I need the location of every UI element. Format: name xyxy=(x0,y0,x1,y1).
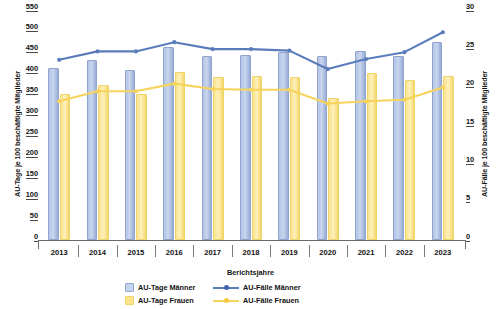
chart-container: AU-Tage je 100 beschäftigte Mitglieder A… xyxy=(0,0,501,309)
legend-item-au-faelle-frauen[interactable]: AU-Fälle Frauen xyxy=(213,296,385,305)
y-axis-right-tick: 25 xyxy=(466,41,488,50)
y-axis-right-stub xyxy=(465,240,466,249)
y-axis-left-tick: 150 xyxy=(12,170,38,179)
line-au-faelle-maenner-point xyxy=(326,67,330,71)
y-axis-left-tick: 450 xyxy=(12,44,38,53)
y-axis-left-tick: 250 xyxy=(12,128,38,137)
legend-label: AU-Fälle Frauen xyxy=(243,296,299,305)
line-female-icon xyxy=(213,296,239,305)
line-au-faelle-maenner-point xyxy=(249,47,253,51)
y-axis-left-tick: 300 xyxy=(12,107,38,116)
line-au-faelle-maenner-point xyxy=(172,40,176,44)
line-au-faelle-frauen-point xyxy=(172,82,176,86)
line-au-faelle-frauen-point xyxy=(402,98,406,102)
y-axis-left-tick: 100 xyxy=(12,191,38,200)
y-axis-left-tick: 500 xyxy=(12,23,38,32)
line-au-faelle-frauen-point xyxy=(441,85,445,89)
line-au-faelle-frauen-point xyxy=(287,88,291,92)
line-au-faelle-maenner-point xyxy=(95,49,99,53)
line-au-faelle-maenner-point xyxy=(402,50,406,54)
y-axis-left-tick: 0 xyxy=(12,233,38,242)
line-au-faelle-frauen-point xyxy=(95,89,99,93)
y-axis-right-tick: 0 xyxy=(466,233,488,242)
line-au-faelle-frauen-point xyxy=(364,99,368,103)
legend-item-au-tage-maenner[interactable]: AU-Tage Männer xyxy=(125,283,213,292)
line-au-faelle-maenner-point xyxy=(57,58,61,62)
box-male-icon xyxy=(125,283,134,292)
line-au-faelle-maenner-point xyxy=(211,47,215,51)
cropped-title-remnant xyxy=(150,0,350,4)
plot-area xyxy=(40,10,462,240)
line-au-faelle-frauen-point xyxy=(249,88,253,92)
y-axis-right-tick: 20 xyxy=(466,79,488,88)
legend-item-au-tage-frauen[interactable]: AU-Tage Frauen xyxy=(125,296,213,305)
y-axis-right-tick: 5 xyxy=(466,194,488,203)
legend-label: AU-Tage Männer xyxy=(138,283,195,292)
y-axis-right-tick: 15 xyxy=(466,118,488,127)
y-axis-left-tick: 350 xyxy=(12,86,38,95)
x-axis-line xyxy=(38,240,466,241)
line-au-faelle-maenner-point xyxy=(364,57,368,61)
legend-label: AU-Fälle Männer xyxy=(243,283,301,292)
line-au-faelle-maenner-point xyxy=(287,49,291,53)
line-au-faelle-frauen-point xyxy=(211,87,215,91)
y-axis-left-tick: 200 xyxy=(12,149,38,158)
chart-legend: AU-Tage Männer AU-Fälle Männer AU-Tage F… xyxy=(125,281,385,307)
line-au-faelle-frauen-path xyxy=(59,84,443,104)
line-au-faelle-maenner-point xyxy=(134,49,138,53)
y-axis-right-tick: 30 xyxy=(466,3,488,12)
line-au-faelle-frauen-point xyxy=(326,101,330,105)
legend-item-au-faelle-maenner[interactable]: AU-Fälle Männer xyxy=(213,283,385,292)
line-au-faelle-frauen-point xyxy=(134,89,138,93)
y-axis-right-tick: 10 xyxy=(466,156,488,165)
y-axis-right-title: AU-Fälle je 100 beschäftigte Mitglieder xyxy=(481,54,489,214)
line-male-icon xyxy=(213,283,239,292)
y-axis-left-tick: 550 xyxy=(12,3,38,12)
line-au-faelle-frauen-point xyxy=(57,99,61,103)
line-series-group xyxy=(40,10,462,240)
y-axis-left-tick: 50 xyxy=(12,212,38,221)
legend-label: AU-Tage Frauen xyxy=(138,296,194,305)
x-axis-tick-label: 2023 xyxy=(421,248,465,257)
x-axis-title: Berichtsjahre xyxy=(0,268,501,277)
y-axis-left-tick: 400 xyxy=(12,65,38,74)
box-female-icon xyxy=(125,296,134,305)
line-au-faelle-maenner-point xyxy=(441,30,445,34)
